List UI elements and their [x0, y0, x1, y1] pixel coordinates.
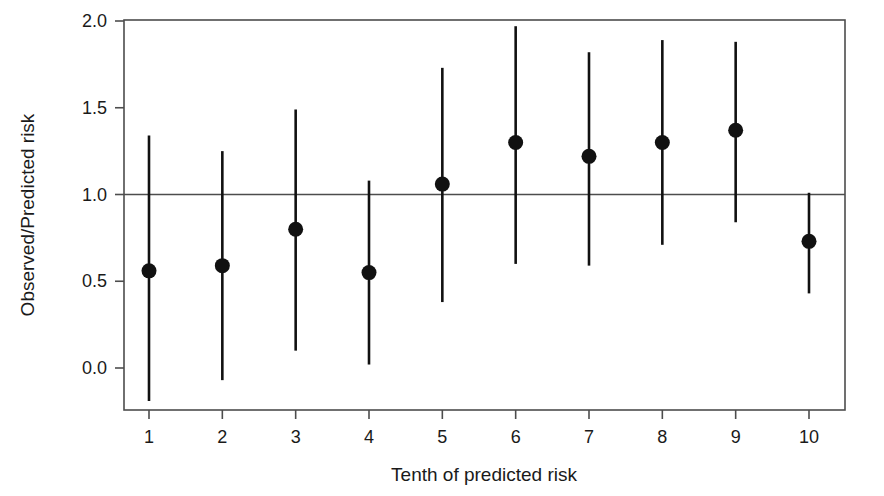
y-tick-label: 2.0 [82, 11, 107, 31]
data-point-marker [435, 177, 450, 192]
data-point-marker [728, 123, 743, 138]
x-tick-label: 8 [657, 427, 667, 447]
x-tick-label: 2 [217, 427, 227, 447]
y-tick-label: 1.5 [82, 98, 107, 118]
x-tick-label: 6 [511, 427, 521, 447]
x-tick-label: 4 [364, 427, 374, 447]
calibration-error-bar-chart: 0.00.51.01.52.0 12345678910 Observed/Pre… [0, 0, 884, 496]
data-point-marker [802, 234, 817, 249]
data-point-marker [655, 135, 670, 150]
data-point-marker [582, 149, 597, 164]
data-point-marker [142, 263, 157, 278]
data-point-marker [508, 135, 523, 150]
x-tick-label: 7 [584, 427, 594, 447]
y-tick-label: 0.5 [82, 271, 107, 291]
data-point-marker [362, 265, 377, 280]
y-tick-label: 0.0 [82, 358, 107, 378]
data-point-marker [215, 258, 230, 273]
x-tick-label: 1 [144, 427, 154, 447]
x-axis-title: Tenth of predicted risk [391, 464, 577, 485]
y-tick-label: 1.0 [82, 185, 107, 205]
x-tick-label: 10 [799, 427, 819, 447]
y-axis-title: Observed/Predicted risk [17, 113, 38, 316]
x-tick-label: 3 [291, 427, 301, 447]
data-point-marker [288, 222, 303, 237]
x-tick-label: 5 [437, 427, 447, 447]
x-tick-label: 9 [731, 427, 741, 447]
